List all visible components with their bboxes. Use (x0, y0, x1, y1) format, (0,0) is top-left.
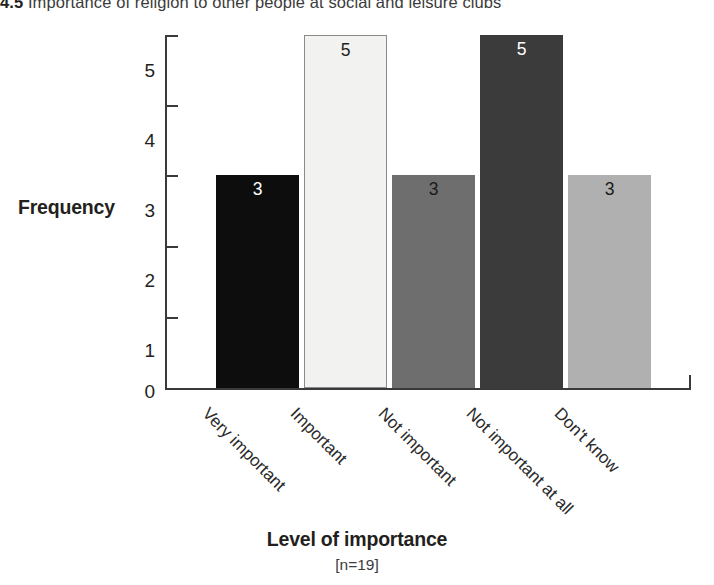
bar-value-label: 3 (568, 181, 651, 199)
y-axis-tick-3 (165, 175, 178, 177)
bar-not-important[interactable]: 3 (392, 175, 475, 388)
plot-area: 3 5 3 5 3 (165, 35, 691, 390)
y-axis-tick-5 (165, 35, 178, 37)
sample-size-note: [n=19] (0, 556, 714, 574)
y-tick-5: 5 (115, 61, 155, 80)
x-tick-label-not-important: Not important (374, 404, 460, 490)
y-tick-3: 3 (115, 201, 155, 220)
y-axis-line (165, 35, 167, 390)
y-axis-tick-4 (165, 105, 178, 107)
y-axis-tick-2 (165, 246, 178, 248)
x-tick-label-dont-know: Don't know (550, 404, 623, 477)
y-tick-2: 2 (115, 271, 155, 290)
y-axis-tick-1 (165, 317, 178, 319)
y-tick-4: 4 (115, 131, 155, 150)
y-axis-title: Frequency (18, 196, 115, 219)
bar-important[interactable]: 5 (304, 35, 387, 388)
x-tick-label-important: Important (286, 404, 351, 469)
bar-value-label: 3 (216, 181, 299, 199)
bar-not-important-at-all[interactable]: 5 (480, 35, 563, 388)
y-tick-0: 0 (115, 382, 155, 401)
figure-caption: 4.5 Importance of religion to other peop… (0, 0, 714, 15)
figure-caption-text: Importance of religion to other people a… (28, 0, 501, 11)
x-axis-line (165, 388, 691, 390)
x-tick-label-very-important: Very important (198, 404, 290, 496)
bar-value-label: 3 (392, 181, 475, 199)
bar-very-important[interactable]: 3 (216, 175, 299, 388)
bar-value-label: 5 (305, 42, 386, 60)
x-axis-title: Level of importance (0, 528, 714, 551)
x-axis-right-cap (689, 375, 691, 390)
y-tick-1: 1 (115, 341, 155, 360)
bar-dont-know[interactable]: 3 (568, 175, 651, 388)
figure-number: 4.5 (0, 0, 23, 11)
bar-value-label: 5 (480, 41, 563, 59)
figure-container: 4.5 Importance of religion to other peop… (0, 0, 714, 585)
